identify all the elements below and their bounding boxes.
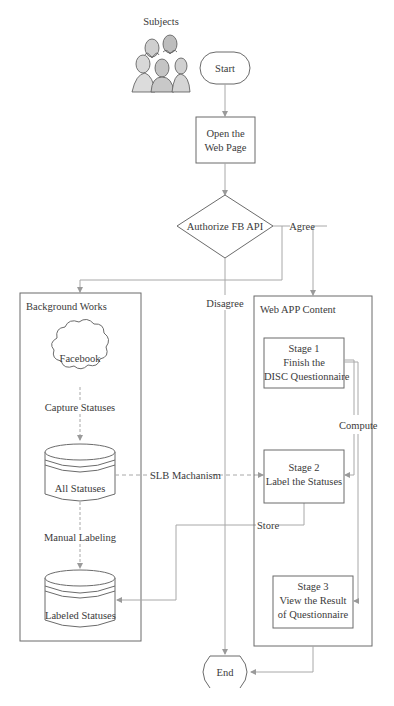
stage1-line3: DISC Questionnaire [264, 370, 344, 383]
labeled-statuses-label: Labeled Statuses [45, 609, 115, 622]
agree-label: Agree [288, 220, 316, 233]
subjects-label: Subjects [140, 15, 182, 28]
capture-statuses-label: Capture Statuses [40, 401, 120, 414]
compute-label: Compute [339, 419, 375, 432]
open-web-page-node [196, 117, 255, 163]
stage3-line2: View the Result [273, 594, 353, 607]
open-page-line2: Web Page [196, 141, 255, 154]
store-label: Store [256, 519, 280, 532]
end-label: End [200, 666, 250, 679]
disagree-label: Disagree [204, 297, 246, 310]
stage2-line2: Label the Statuses [264, 475, 344, 488]
authorize-label: Authorize FB API [182, 220, 268, 233]
background-works-title: Background Works [26, 300, 107, 313]
stage2-line1: Stage 2 [264, 461, 344, 474]
stage1-line1: Stage 1 [264, 342, 344, 355]
stage1-line2: Finish the [264, 356, 344, 369]
people-group-icon [132, 35, 190, 92]
facebook-label: Facebook [50, 352, 110, 365]
stage3-line3: of Questionnaire [273, 608, 353, 621]
manual-labeling-label: Manual Labeling [40, 531, 120, 544]
start-label: Start [200, 62, 250, 75]
open-page-line1: Open the [196, 127, 255, 140]
stage3-line1: Stage 3 [273, 580, 353, 593]
all-statuses-label: All Statuses [45, 482, 115, 495]
slb-mechanism-label: SLB Machanism [150, 469, 214, 482]
web-app-content-title: Web APP Content [260, 303, 336, 316]
